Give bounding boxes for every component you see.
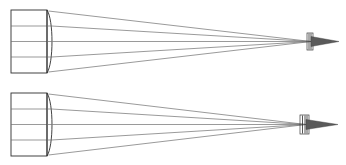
converging-ray-upper-inner-top [52,26,311,42]
ray-diagram-canvas [0,0,346,165]
converging-ray-upper-inner-bottom [52,42,311,58]
converging-ray-lower-marginal-bottom [49,125,307,156]
focus-wedge-upper [311,37,339,47]
converging-ray-lower-marginal-top [49,94,307,125]
focus-wedge-lower [306,120,338,130]
converging-ray-lower-inner-bottom [52,125,306,141]
optical-ray-diagram [0,0,346,165]
lower-ray-trace-panel [11,93,338,156]
upper-ray-trace-panel [11,10,339,73]
converging-ray-lower-inner-top [52,109,306,125]
converging-ray-upper-marginal-top [49,11,312,42]
converging-ray-upper-marginal-bottom [49,42,312,73]
